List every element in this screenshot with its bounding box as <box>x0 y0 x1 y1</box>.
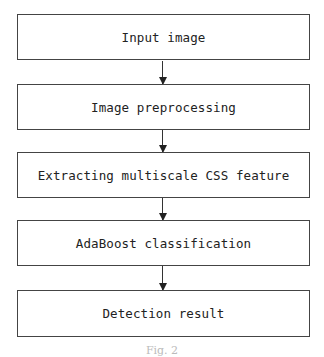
step-label: Extracting multiscale CSS feature <box>38 168 290 183</box>
step-adaboost-classification: AdaBoost classification <box>17 220 310 266</box>
step-label: AdaBoost classification <box>76 236 251 251</box>
arrow-down-icon <box>162 266 163 290</box>
step-detection-result: Detection result <box>17 290 310 337</box>
step-extract-css-feature: Extracting multiscale CSS feature <box>17 152 310 198</box>
step-label: Input image <box>122 30 206 45</box>
step-label: Image preprocessing <box>91 100 236 115</box>
arrow-down-icon <box>162 198 163 220</box>
arrow-down-icon <box>162 130 163 152</box>
figure-caption: Fig. 2 <box>0 344 324 357</box>
arrow-down-icon <box>162 61 163 84</box>
step-image-preprocessing: Image preprocessing <box>17 84 310 130</box>
step-label: Detection result <box>102 306 224 321</box>
step-input-image: Input image <box>17 14 310 60</box>
